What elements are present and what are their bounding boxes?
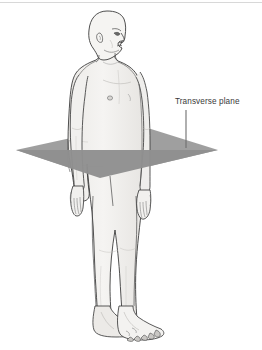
right-hand-outline xyxy=(137,190,151,219)
anatomy-figure: Transverse plane xyxy=(0,0,262,350)
feet-group xyxy=(93,306,164,341)
head-group xyxy=(89,11,126,60)
human-body-figure xyxy=(68,11,164,341)
anatomy-illustration xyxy=(0,0,262,350)
head-outline xyxy=(89,11,126,60)
nipple-marker xyxy=(107,96,112,100)
plane-front-surface xyxy=(16,150,218,178)
transverse-plane-front xyxy=(16,150,218,178)
transverse-plane-label: Transverse plane xyxy=(175,96,240,107)
